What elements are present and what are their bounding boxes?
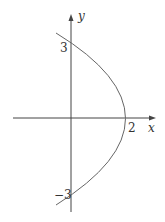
parabola-curve (56, 33, 126, 205)
parabola-chart: y x 3 −3 2 (0, 0, 165, 222)
y-tick-neg3: −3 (54, 188, 72, 202)
y-axis-arrow-icon (69, 14, 74, 21)
x-axis-label: x (148, 121, 155, 135)
x-tick-2: 2 (128, 121, 136, 135)
y-tick-3: 3 (60, 41, 68, 55)
x-axis-arrow-icon (149, 116, 156, 121)
y-axis-label: y (77, 9, 85, 23)
